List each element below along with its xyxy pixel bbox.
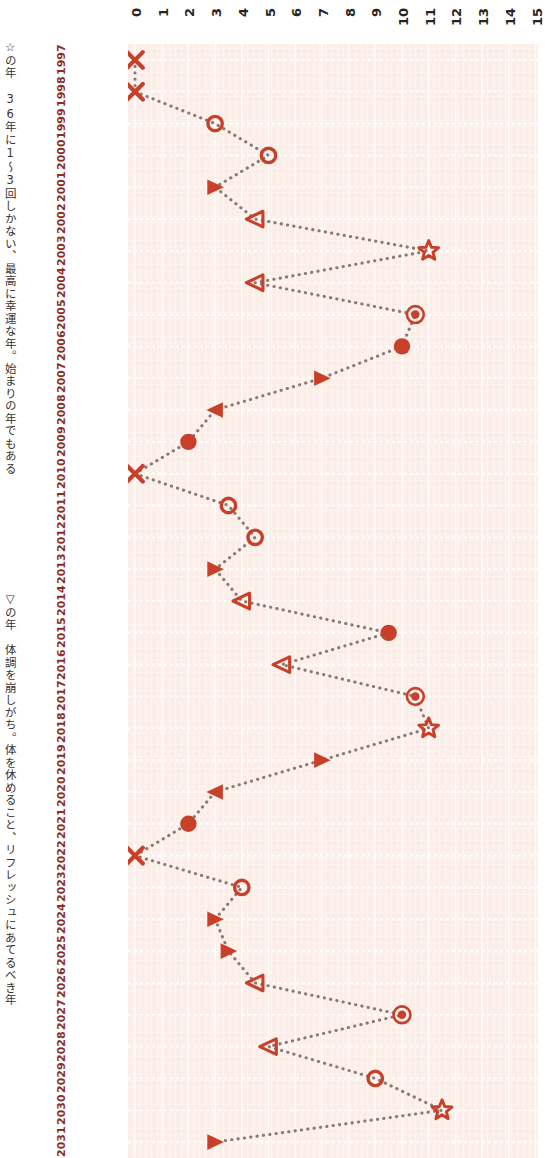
value-tick-15: 15 xyxy=(531,8,544,26)
star-year-annotation: ☆の年 36年に1〜3回しかない、最高に幸運な年。始まりの年でもある xyxy=(4,40,16,475)
data-point-2006 xyxy=(394,338,410,354)
data-point-2025 xyxy=(221,943,238,959)
value-tick-14: 14 xyxy=(504,8,517,26)
value-tick-6: 6 xyxy=(290,8,303,17)
data-point-2021 xyxy=(180,816,196,832)
value-tick-10: 10 xyxy=(397,8,410,26)
data-point-2011 xyxy=(221,498,235,512)
value-tick-12: 12 xyxy=(450,8,463,26)
value-tick-2: 2 xyxy=(183,8,196,17)
year-label-2031: 2031 xyxy=(56,1120,128,1158)
fortune-line-series xyxy=(128,44,538,1158)
data-point-2015 xyxy=(380,625,396,641)
annotation-column: ☆の年 36年に1〜3回しかない、最高に幸運な年。始まりの年でもある ▽の年 体… xyxy=(0,0,48,1158)
triangle-year-annotation: ▽の年 体調を崩しがち。体を休めること、リフレッシュにあてるべき年 xyxy=(4,592,16,1007)
value-tick-1: 1 xyxy=(157,8,170,17)
value-tick-9: 9 xyxy=(370,8,383,17)
value-tick-7: 7 xyxy=(317,8,330,17)
value-tick-4: 4 xyxy=(237,8,250,17)
data-point-2009 xyxy=(180,434,196,450)
value-tick-3: 3 xyxy=(210,8,223,17)
value-tick-0: 0 xyxy=(130,8,143,17)
year-axis: 1997199819992000200120022003200420052006… xyxy=(56,44,128,1158)
plot-area xyxy=(128,44,538,1158)
data-point-2017 xyxy=(407,688,424,705)
data-point-2005 xyxy=(407,306,424,323)
value-tick-11: 11 xyxy=(424,8,437,26)
value-tick-5: 5 xyxy=(264,8,277,17)
value-tick-13: 13 xyxy=(477,8,490,26)
value-tick-8: 8 xyxy=(344,8,357,17)
